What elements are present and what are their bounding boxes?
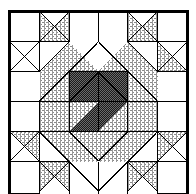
patch-left-lower-white [10,102,40,132]
patch-right-white-square [158,72,188,102]
patch-corner-bottom-right-white [158,162,188,192]
quilt-block-svg [0,0,196,194]
patch-left-white-square [10,72,40,102]
patch-corner-bottom-left-white [10,162,40,192]
patch-right-lower-white [158,102,188,132]
patch-center-top-white-2 [99,12,128,42]
quilt-block-figure [0,0,196,194]
